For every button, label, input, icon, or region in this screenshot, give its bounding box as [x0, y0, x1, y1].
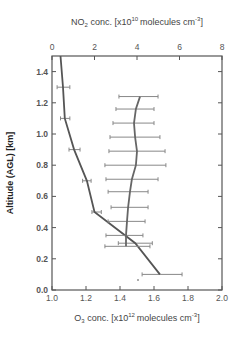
- top-tick-label: 2: [92, 42, 97, 52]
- series-line-no2: [126, 97, 140, 247]
- y-axis-title: Altitude (AGL) [km]: [5, 132, 15, 215]
- top-tick-label: 4: [135, 42, 140, 52]
- y-tick-label: 1.0: [36, 129, 48, 139]
- y-tick-label: 0.4: [36, 223, 48, 233]
- series-no2: [105, 95, 166, 249]
- top-axis-title: NO2 conc. [x1010molecules cm-3]: [71, 16, 203, 28]
- tick-labels: 1.01.21.41.61.82.0024680.00.20.40.60.81.…: [36, 42, 228, 303]
- bottom-tick-label: 2.0: [216, 293, 228, 303]
- series-o3: [57, 56, 182, 276]
- top-tick-label: 0: [50, 42, 55, 52]
- bottom-axis-title: O3 conc. [x1012molecules cm-3]: [74, 312, 199, 324]
- altitude-profile-chart: 1.01.21.41.61.82.0024680.00.20.40.60.81.…: [0, 0, 239, 345]
- bottom-tick-label: 1.8: [182, 293, 194, 303]
- plot-frame: [52, 56, 222, 290]
- y-tick-label: 0.8: [36, 160, 48, 170]
- y-tick-label: 0.0: [36, 285, 48, 295]
- top-tick-label: 6: [177, 42, 182, 52]
- bottom-tick-label: 1.2: [80, 293, 92, 303]
- bottom-tick-label: 1.6: [148, 293, 160, 303]
- data-series: [57, 56, 182, 276]
- y-tick-label: 1.4: [36, 67, 48, 77]
- stray-dot: [137, 279, 139, 281]
- axis-ticks: [52, 56, 222, 290]
- y-tick-label: 0.6: [36, 191, 48, 201]
- y-tick-label: 1.2: [36, 98, 48, 108]
- top-tick-label: 8: [220, 42, 225, 52]
- y-tick-label: 0.2: [36, 254, 48, 264]
- bottom-tick-label: 1.4: [114, 293, 126, 303]
